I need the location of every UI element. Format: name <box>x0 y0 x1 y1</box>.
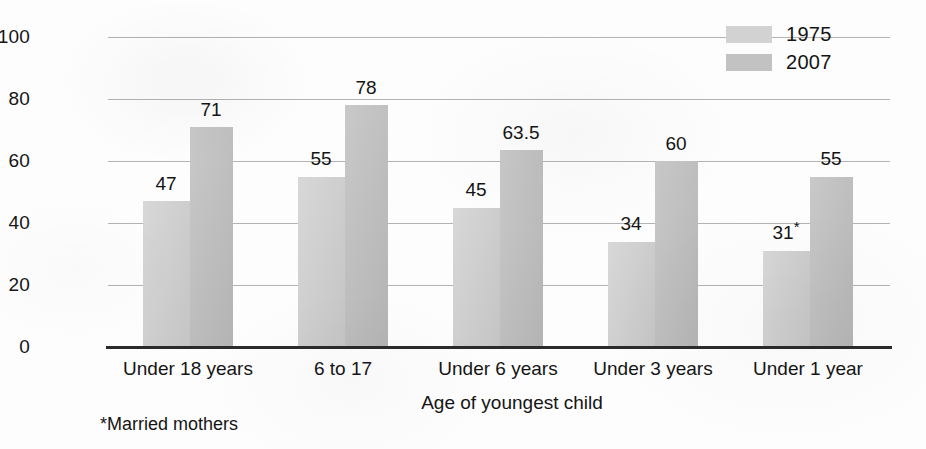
x-tick-label-under-1-year: Under 1 year <box>753 358 863 380</box>
legend-item-1975: 1975 <box>726 22 832 46</box>
y-tick-label-40: 40 <box>0 212 30 234</box>
bar-value-1975-under-18-years: 47 <box>155 173 176 195</box>
bar-2007-under-3-years <box>655 161 698 347</box>
bar-1975-under-1-year <box>763 251 810 347</box>
bar-value-1975-under-3-years: 34 <box>620 213 641 235</box>
bar-1975-under-3-years <box>608 242 655 347</box>
footnote-asterisk: * <box>794 218 800 235</box>
legend-item-2007: 2007 <box>726 50 832 74</box>
x-tick-label-under-6-years: Under 6 years <box>438 358 557 380</box>
y-tick-label-100: 100 <box>0 26 30 48</box>
bar-1975-under-6-years <box>453 208 500 348</box>
bar-value-2007-under-1-year: 55 <box>820 148 841 170</box>
x-tick-label-under-3-years: Under 3 years <box>593 358 712 380</box>
bar-value-1975-6-to-17: 55 <box>310 148 331 170</box>
bar-value-2007-under-18-years: 71 <box>200 99 221 121</box>
bar-value-1975-under-1-year: 31* <box>773 218 800 244</box>
y-tick-label-0: 0 <box>0 336 30 358</box>
bar-value-1975-under-6-years: 45 <box>465 179 486 201</box>
bar-value-2007-under-3-years: 60 <box>665 133 686 155</box>
bar-2007-6-to-17 <box>345 105 388 347</box>
bar-2007-under-6-years <box>500 150 543 347</box>
bar-value-2007-6-to-17: 78 <box>355 77 376 99</box>
legend-label-1975: 1975 <box>786 23 832 46</box>
x-tick-label-under-18-years: Under 18 years <box>123 358 253 380</box>
y-tick-label-80: 80 <box>0 88 30 110</box>
bar-1975-under-18-years <box>143 201 190 347</box>
y-tick-label-60: 60 <box>0 150 30 172</box>
bar-value-number: 31 <box>773 222 794 243</box>
x-axis-title: Age of youngest child <box>421 392 603 414</box>
legend-swatch-1975 <box>726 26 772 43</box>
bar-chart-figure: 47 71 55 78 45 63.5 34 60 31* 55 100 80 … <box>0 0 926 449</box>
legend-label-2007: 2007 <box>786 51 832 74</box>
x-tick-label-6-to-17: 6 to 17 <box>314 358 372 380</box>
bar-1975-6-to-17 <box>298 177 345 348</box>
y-tick-label-20: 20 <box>0 274 30 296</box>
gridline-80 <box>108 99 890 100</box>
chart-footnote: *Married mothers <box>100 414 238 435</box>
legend-swatch-2007 <box>726 54 772 71</box>
bar-2007-under-18-years <box>190 127 233 347</box>
x-axis-line <box>106 346 892 349</box>
bar-2007-under-1-year <box>810 177 853 348</box>
bar-value-2007-under-6-years: 63.5 <box>503 122 540 144</box>
plot-area: 47 71 55 78 45 63.5 34 60 31* 55 <box>108 37 890 347</box>
legend: 1975 2007 <box>726 22 832 78</box>
